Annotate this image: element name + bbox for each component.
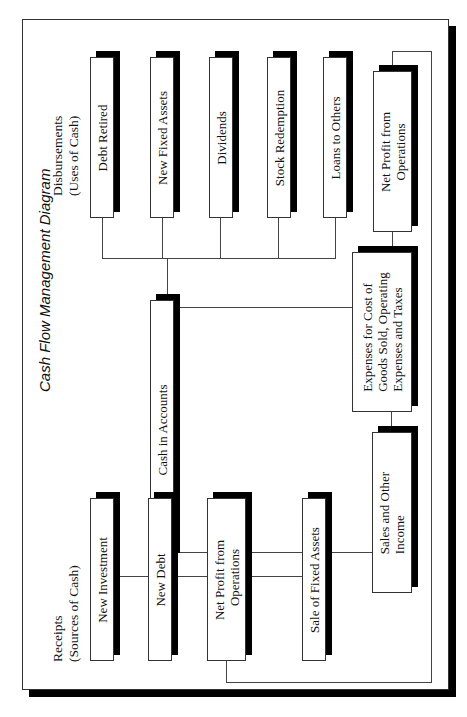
connector-dividends — [220, 218, 221, 259]
connector-cash-to-expenses — [180, 307, 352, 308]
node-net-profit-bottom[interactable]: Net Profit from Operations — [207, 498, 246, 661]
receipts-label-line1: Receipts — [50, 616, 65, 663]
connector-new-fixed-assets — [162, 218, 163, 259]
disbursements-label-line1: Disbursements — [50, 116, 65, 196]
loop-line-top — [392, 51, 432, 52]
node-expenses[interactable]: Expenses for Cost of Goods Sold, Operati… — [352, 252, 412, 412]
frame-shadow-bottom — [29, 690, 456, 697]
node-new-investment[interactable]: New Investment — [90, 498, 114, 661]
node-dividends[interactable]: Dividends — [209, 57, 233, 218]
node-debt-retired[interactable]: Debt Retired — [90, 57, 114, 218]
node-sale-fixed-assets[interactable]: Sale of Fixed Assets — [302, 498, 326, 661]
node-loans-to-others[interactable]: Loans to Others — [323, 57, 347, 218]
node-stock-redemption[interactable]: Stock Redemption — [267, 57, 291, 218]
disbursements-bus — [102, 258, 335, 259]
node-sales-income[interactable]: Sales and Other Income — [372, 432, 412, 593]
frame-shadow-right — [449, 26, 456, 697]
loop-line-bottom — [226, 682, 431, 683]
loop-line-right — [431, 51, 432, 683]
loop-line-down — [226, 661, 227, 682]
node-net-profit-top[interactable]: Net Profit from Operations — [373, 71, 412, 232]
diagram-title: Cash Flow Management Diagram — [36, 169, 53, 392]
connector-stock-redemption — [278, 218, 279, 259]
connector-loans-to-others — [335, 218, 336, 259]
receipts-label-line2: (Sources of Cash) — [66, 565, 81, 662]
node-new-fixed-assets[interactable]: New Fixed Assets — [150, 57, 174, 218]
connector-debt-retired — [102, 218, 103, 259]
disbursements-label-line2: (Uses of Cash) — [66, 116, 81, 196]
node-new-debt[interactable]: New Debt — [148, 498, 172, 661]
